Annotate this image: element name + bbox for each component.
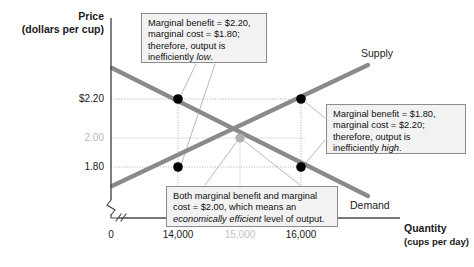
x-tick-label-15000: 15,000 xyxy=(205,229,275,240)
x-axis-title-main: Quantity xyxy=(404,222,447,234)
callout-inefficiently-low: Marginal benefit = $2.20, marginal cost … xyxy=(141,13,267,63)
y-axis-title-main: Price xyxy=(78,10,104,22)
callout-eff-line2: cost = $2.00, which means an xyxy=(173,202,296,212)
callout-high-line4-suffix: . xyxy=(399,143,402,153)
callout-high-line4-prefix: inefficiently xyxy=(333,143,381,153)
equilibrium-marker xyxy=(235,133,244,142)
x-axis-title-sub: (cups per day) xyxy=(404,236,469,247)
marker-supply-16000 xyxy=(296,94,306,104)
supply-curve-label: Supply xyxy=(361,47,393,59)
marker-demand-14000 xyxy=(173,94,183,104)
y-axis-title: Price (dollars per cup) xyxy=(0,10,104,36)
chart-canvas: Price (dollars per cup) Quantity (cups p… xyxy=(0,0,474,267)
leader-low-a xyxy=(180,64,196,97)
callout-high-line1: Marginal benefit = $1.80, xyxy=(333,109,436,119)
leader-high-a xyxy=(304,101,325,118)
callout-high-line3: therefore, output is xyxy=(333,132,411,142)
callout-low-emphasis: low xyxy=(196,52,210,62)
callout-low-line2: marginal cost = $1.80; xyxy=(148,29,240,39)
x-tick-label-16000: 16,000 xyxy=(266,229,336,240)
marker-demand-16000 xyxy=(296,162,306,172)
y-axis-title-sub: (dollars per cup) xyxy=(22,23,104,35)
callout-low-line3: therefore, output is xyxy=(148,41,226,51)
y-tick-label-220: $2.20 xyxy=(30,93,104,104)
y-tick-label-200: 2.00 xyxy=(30,132,104,143)
x-tick-label-14000: 14,000 xyxy=(143,229,213,240)
callout-high-line2: marginal cost = $2.20; xyxy=(333,120,425,130)
y-tick-label-180: 1.80 xyxy=(30,161,104,172)
x-tick-label-0: 0 xyxy=(76,229,146,240)
callout-inefficiently-high: Marginal benefit = $1.80, marginal cost … xyxy=(326,104,466,154)
y-axis-break xyxy=(107,200,115,215)
leader-eff-a xyxy=(205,140,238,185)
callout-eff-emphasis: economically efficient xyxy=(173,214,261,224)
demand-curve-label: Demand xyxy=(350,199,390,211)
callout-low-line4-prefix: inefficiently xyxy=(148,52,196,62)
leader-high-b xyxy=(304,140,325,165)
callout-low-line1: Marginal benefit = $2.20, xyxy=(148,18,251,28)
callout-eff-line1: Both marginal benefit and marginal xyxy=(173,191,317,201)
callout-eff-line3-suffix: level of output. xyxy=(261,214,324,224)
callout-economically-efficient: Both marginal benefit and marginal cost … xyxy=(166,186,338,227)
callout-high-emphasis: high xyxy=(381,143,399,153)
marker-supply-14000 xyxy=(173,162,183,172)
callout-low-line4-suffix: . xyxy=(210,52,213,62)
x-axis-title: Quantity (cups per day) xyxy=(404,222,474,248)
axis-break-marks xyxy=(107,200,126,221)
